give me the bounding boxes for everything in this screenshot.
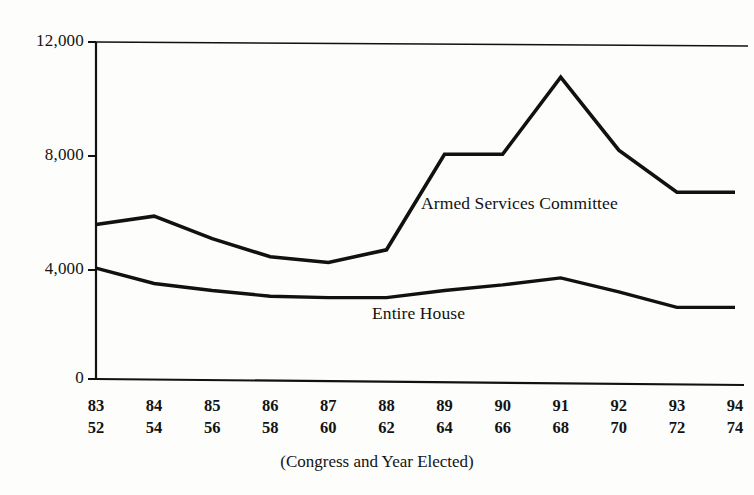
x-axis-tick-89: 8964 — [425, 395, 465, 439]
x-axis-caption: (Congress and Year Elected) — [237, 452, 517, 472]
x-tick-congress-number: 87 — [308, 395, 348, 417]
x-axis-tick-94: 9474 — [715, 395, 754, 439]
x-axis-tick-93: 9372 — [657, 395, 697, 439]
y-axis-label-8000: 8,000 — [0, 145, 84, 165]
x-axis-tick-90: 9066 — [483, 395, 523, 439]
x-tick-year-elected: 74 — [715, 417, 754, 439]
x-tick-year-elected: 70 — [599, 417, 639, 439]
chart-figure: 12,000 8,000 4,000 0 8352845485568658876… — [0, 0, 754, 495]
x-axis-line — [95, 379, 744, 385]
x-axis-tick-86: 8658 — [250, 395, 290, 439]
x-axis-tick-85: 8556 — [192, 395, 232, 439]
y-axis-label-0: 0 — [0, 368, 84, 388]
x-tick-congress-number: 86 — [250, 395, 290, 417]
x-axis-tick-87: 8760 — [308, 395, 348, 439]
x-tick-year-elected: 68 — [541, 417, 581, 439]
chart-axes — [88, 42, 748, 385]
x-tick-congress-number: 94 — [715, 395, 754, 417]
x-axis-tick-88: 8862 — [366, 395, 406, 439]
x-tick-year-elected: 62 — [366, 417, 406, 439]
x-tick-year-elected: 64 — [425, 417, 465, 439]
x-axis-tick-92: 9270 — [599, 395, 639, 439]
x-tick-congress-number: 89 — [425, 395, 465, 417]
x-tick-year-elected: 52 — [76, 417, 116, 439]
x-tick-year-elected: 72 — [657, 417, 697, 439]
x-tick-congress-number: 88 — [366, 395, 406, 417]
x-tick-congress-number: 90 — [483, 395, 523, 417]
x-tick-year-elected: 60 — [308, 417, 348, 439]
y-axis-label-12000: 12,000 — [0, 31, 84, 51]
series-label-entire-house: Entire House — [372, 303, 465, 324]
x-tick-year-elected: 66 — [483, 417, 523, 439]
y-axis-label-4000: 4,000 — [0, 259, 84, 279]
x-axis-tick-83: 8352 — [76, 395, 116, 439]
series-line-entire-house — [96, 268, 735, 307]
x-tick-congress-number: 91 — [541, 395, 581, 417]
x-tick-year-elected: 58 — [250, 417, 290, 439]
top-border-rule — [96, 42, 748, 46]
x-tick-year-elected: 54 — [134, 417, 174, 439]
series-label-armed-services-committee: Armed Services Committee — [421, 193, 618, 214]
x-tick-congress-number: 84 — [134, 395, 174, 417]
x-tick-congress-number: 85 — [192, 395, 232, 417]
x-tick-congress-number: 93 — [657, 395, 697, 417]
x-tick-congress-number: 92 — [599, 395, 639, 417]
x-axis-tick-91: 9168 — [541, 395, 581, 439]
x-tick-year-elected: 56 — [192, 417, 232, 439]
series-line-armed-services-committee — [96, 77, 735, 262]
x-tick-congress-number: 83 — [76, 395, 116, 417]
x-axis-tick-84: 8454 — [134, 395, 174, 439]
